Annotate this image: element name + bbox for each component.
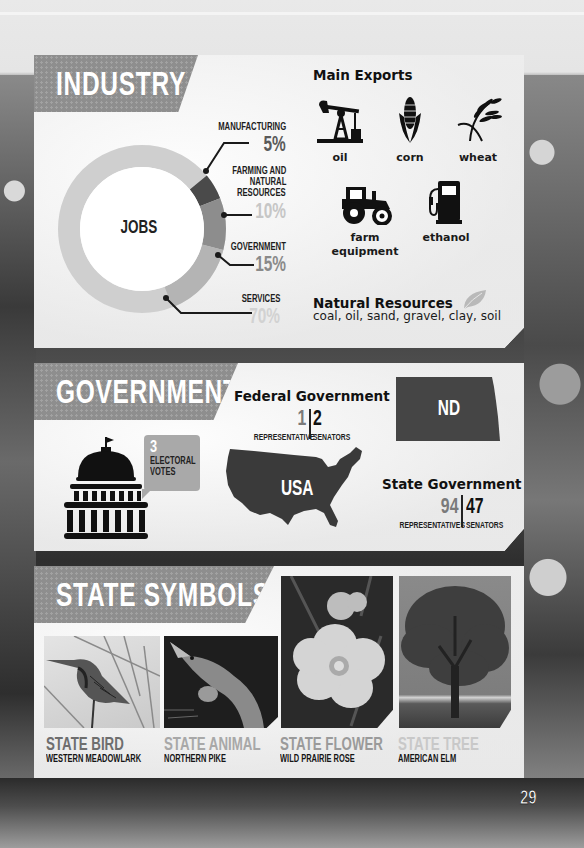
- legend-services: SERVICES 70%: [184, 293, 280, 333]
- leaf-icon: [462, 289, 488, 311]
- export-oil: oil: [300, 99, 380, 165]
- export-label: oil: [300, 151, 380, 165]
- background-bottom-grass: [0, 778, 584, 848]
- government-banner: GOVERNMENT: [34, 363, 238, 420]
- state-representatives: 94 REPRESENTATIVES: [374, 495, 458, 530]
- electoral-votes-label-1: ELECTORAL: [150, 455, 183, 466]
- oil-pump-icon: [315, 99, 365, 145]
- state-senators: 47 SENATORS: [466, 495, 526, 530]
- export-label: ethanol: [406, 231, 486, 245]
- federal-rep-label: REPRESENTATIVE: [254, 432, 315, 442]
- state-government-title: State Government: [382, 476, 521, 492]
- legend-label: RESOURCES: [237, 187, 286, 198]
- export-ethanol: ethanol: [406, 179, 486, 245]
- state-animal-name: NORTHERN PIKE: [164, 752, 226, 764]
- state-divider: [461, 495, 463, 527]
- northern-pike-image: [164, 636, 278, 728]
- state-symbols-title: STATE SYMBOLS: [56, 575, 270, 614]
- state-tree-title: STATE TREE: [398, 734, 479, 753]
- government-panel: GOVERNMENT 3 ELECTORAL VOTES Federal Gov…: [34, 363, 524, 551]
- legend-value: 10%: [255, 200, 286, 222]
- federal-representatives: 1 REPRESENTATIVE: [230, 407, 306, 442]
- page-number: 29: [520, 786, 537, 809]
- background-left-terrain: [0, 75, 36, 848]
- government-title: GOVERNMENT: [56, 372, 239, 411]
- state-sen-label: SENATORS: [466, 520, 503, 530]
- federal-sen-label: SENATORS: [313, 432, 350, 442]
- electoral-votes-bubble: 3 ELECTORAL VOTES: [144, 435, 200, 491]
- export-farm-equipment: farm equipment: [325, 183, 405, 259]
- state-tree-name: AMERICAN ELM: [398, 752, 456, 764]
- legend-government: GOVERNMENT 15%: [184, 241, 286, 281]
- legend-value: 5%: [264, 133, 286, 155]
- state-flower-title: STATE FLOWER: [280, 734, 383, 753]
- wild-prairie-rose-image: [281, 576, 393, 728]
- natural-resources-list: coal, oil, sand, gravel, clay, soil: [313, 309, 501, 323]
- federal-senators: 2 SENATORS: [313, 407, 383, 442]
- meadowlark-image: [44, 636, 160, 728]
- state-animal-photo: [164, 636, 278, 728]
- state-flower-photo: [281, 576, 393, 728]
- state-symbols-banner: STATE SYMBOLS: [34, 566, 274, 623]
- fuel-pump-icon: [428, 179, 464, 225]
- export-label: wheat: [438, 151, 518, 165]
- state-rep-number: 94: [440, 495, 458, 517]
- state-animal-title: STATE ANIMAL: [164, 734, 261, 753]
- background-right-terrain: [524, 75, 584, 848]
- federal-rep-number: 1: [297, 407, 306, 429]
- state-bird-name: WESTERN MEADOWLARK: [46, 752, 141, 764]
- usa-label: USA: [281, 475, 314, 501]
- corn-icon: [395, 95, 425, 145]
- federal-divider: [309, 409, 311, 439]
- export-label: farm: [325, 231, 405, 245]
- capitol-building-icon: [64, 435, 150, 541]
- electoral-votes-label-2: VOTES: [150, 466, 183, 477]
- state-rep-label: REPRESENTATIVES: [399, 520, 465, 530]
- usa-map: USA: [224, 445, 366, 535]
- federal-sen-number: 2: [313, 407, 322, 429]
- export-wheat: wheat: [438, 95, 518, 165]
- legend-manufacturing: MANUFACTURING 5%: [184, 121, 286, 161]
- state-bird-title: STATE BIRD: [46, 734, 124, 753]
- main-exports-title: Main Exports: [313, 67, 413, 83]
- natural-resources-title: Natural Resources: [313, 289, 488, 311]
- legend-value: 15%: [255, 253, 286, 275]
- electoral-votes-number: 3: [150, 438, 183, 455]
- export-label: equipment: [325, 245, 405, 259]
- state-tree-photo: [399, 576, 511, 728]
- state-sen-number: 47: [466, 495, 484, 517]
- north-dakota-map: ND: [396, 377, 502, 441]
- federal-government-title: Federal Government: [234, 388, 390, 404]
- state-flower-name: WILD PRAIRIE ROSE: [280, 752, 355, 764]
- state-bird-photo: [44, 636, 160, 728]
- american-elm-image: [399, 576, 511, 728]
- state-symbols-panel: STATE SYMBOLS: [34, 566, 524, 778]
- nd-label: ND: [438, 395, 460, 421]
- legend-value: 70%: [249, 305, 280, 327]
- legend-farming: FARMING AND NATURAL RESOURCES 10%: [184, 165, 286, 225]
- background-horizon: [0, 12, 584, 15]
- industry-panel: INDUSTRY JOBS MANUFACTURING 5%: [34, 55, 524, 348]
- wheat-icon: [452, 95, 504, 145]
- tractor-icon: [336, 183, 394, 225]
